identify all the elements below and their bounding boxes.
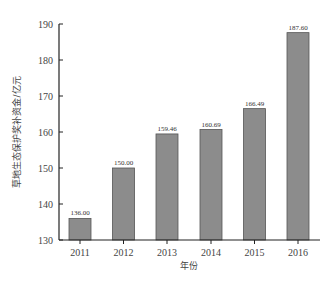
x-tick-label: 2011	[70, 247, 90, 258]
bar-value-label: 159.46	[157, 125, 177, 133]
bar-2016	[287, 33, 309, 240]
y-tick-label: 150	[38, 163, 53, 174]
x-axis-ticks: 201120122013201420152016	[70, 240, 308, 258]
bar-value-label: 136.00	[70, 209, 90, 217]
bar-value-label: 150.00	[114, 159, 134, 167]
bars-group	[69, 33, 309, 240]
y-tick-label: 160	[38, 127, 53, 138]
y-tick-label: 170	[38, 91, 53, 102]
bar-2012	[113, 168, 135, 240]
bar-value-label: 160.69	[201, 121, 221, 129]
bar-chart: 136.00150.00159.46160.69166.49187.60 130…	[0, 0, 336, 288]
y-tick-label: 180	[38, 55, 53, 66]
bar-2013	[156, 134, 178, 240]
bar-2015	[244, 109, 266, 240]
y-tick-label: 190	[38, 19, 53, 30]
bar-2014	[200, 130, 222, 240]
x-tick-label: 2016	[288, 247, 308, 258]
bar-2011	[69, 218, 91, 240]
x-tick-label: 2012	[114, 247, 134, 258]
x-axis-title: 年份	[180, 260, 198, 271]
x-tick-label: 2015	[245, 247, 265, 258]
bar-value-labels: 136.00150.00159.46160.69166.49187.60	[70, 24, 308, 218]
x-tick-label: 2014	[201, 247, 221, 258]
x-tick-label: 2013	[157, 247, 177, 258]
y-tick-label: 130	[38, 235, 53, 246]
bar-value-label: 166.49	[245, 100, 265, 108]
y-tick-label: 140	[38, 199, 53, 210]
y-axis-title: 草地生态保护奖补资金/亿元	[11, 76, 22, 187]
bar-value-label: 187.60	[288, 24, 308, 32]
